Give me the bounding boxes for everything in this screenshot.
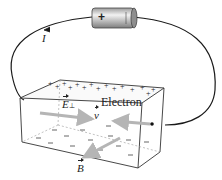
electric-field-label: E⊥	[62, 99, 75, 110]
hall-effect-diagram	[0, 0, 222, 180]
velocity-arrow	[114, 121, 150, 124]
negative-charges	[36, 126, 149, 155]
velocity-label: v	[94, 110, 99, 121]
electric-field-arrow	[40, 113, 92, 119]
magnetic-field-arrow	[84, 138, 120, 157]
electron-dot	[150, 122, 154, 126]
magnetic-field-label: B	[77, 163, 84, 174]
current-label: I	[42, 33, 46, 44]
electron-label: Electron	[101, 96, 142, 108]
battery-positive-label: +	[98, 11, 105, 23]
